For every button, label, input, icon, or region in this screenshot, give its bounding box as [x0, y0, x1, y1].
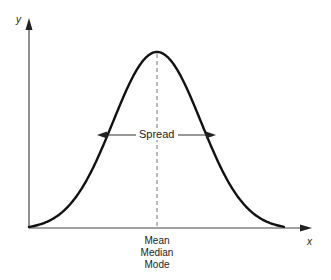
spread-arrow-right-icon	[206, 132, 216, 139]
y-axis-label: y	[16, 14, 21, 25]
y-axis-arrow-icon	[26, 18, 33, 30]
median-label: Median	[127, 247, 187, 259]
mean-label: Mean	[127, 235, 187, 247]
x-axis-arrow-icon	[300, 225, 312, 232]
x-axis-label: x	[307, 236, 312, 247]
spread-label: Spread	[137, 128, 176, 140]
mode-label: Mode	[127, 259, 187, 271]
spread-arrow-left-icon	[97, 132, 107, 139]
center-labels: Mean Median Mode	[127, 235, 187, 271]
